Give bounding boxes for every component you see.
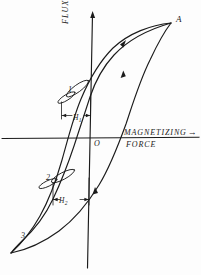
h1-subscript: 1 xyxy=(79,117,82,123)
flux-axis-arrowhead xyxy=(90,11,95,18)
force-label: FORCE xyxy=(126,141,156,149)
magnetizing-label: MAGNETIZING→ xyxy=(124,128,198,137)
flux-axis-label-text: FLUX xyxy=(61,0,70,24)
point-label-1: 1 xyxy=(68,86,72,94)
magnetizing-axis-arrow-glyph: → xyxy=(187,127,198,137)
magnetizing-label-text: MAGNETIZING xyxy=(124,128,187,137)
minor-loop-1-inner xyxy=(57,90,77,105)
curve-direction-arrowhead-right xyxy=(121,71,126,79)
hysteresis-diagram-canvas xyxy=(0,0,201,275)
point-label-3: 3 xyxy=(21,232,25,240)
dimension-label-h1: H1 xyxy=(73,114,82,123)
flux-axis-line xyxy=(88,14,93,268)
h1-arrowhead-right xyxy=(86,114,90,117)
flux-axis-label: FLUX→ xyxy=(61,0,70,24)
origin-label: O xyxy=(94,140,100,148)
h1-arrowhead-left xyxy=(62,114,66,117)
point-label-2: 2 xyxy=(46,174,50,182)
magnetizing-force-axis-line xyxy=(2,137,199,138)
h2-subscript: 2 xyxy=(65,200,68,206)
dimension-label-h2: H2 xyxy=(59,197,68,206)
hysteresis-figure: A O 1 2 3 H1 H2 FLUX→ MAGNETIZING→ FORCE xyxy=(0,0,201,275)
point-label-a: A xyxy=(176,15,182,24)
